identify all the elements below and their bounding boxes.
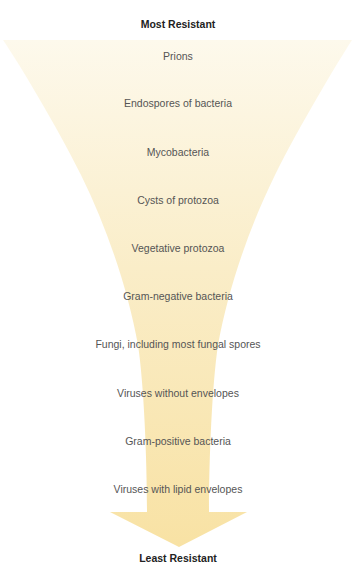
item-endospores: Endospores of bacteria [0,96,356,110]
item-viruses-with-lipid-envelopes: Viruses with lipid envelopes [0,482,356,496]
item-prions: Prions [0,49,356,63]
item-cysts-of-protozoa: Cysts of protozoa [0,193,356,207]
item-gram-positive-bacteria: Gram-positive bacteria [0,434,356,448]
most-resistant-label: Most Resistant [0,17,356,31]
item-viruses-without-envelopes: Viruses without envelopes [0,386,356,400]
item-vegetative-protozoa: Vegetative protozoa [0,241,356,255]
item-mycobacteria: Mycobacteria [0,145,356,159]
least-resistant-label: Least Resistant [0,551,356,565]
item-gram-negative-bacteria: Gram-negative bacteria [0,289,356,303]
item-fungi: Fungi, including most fungal spores [0,337,356,351]
